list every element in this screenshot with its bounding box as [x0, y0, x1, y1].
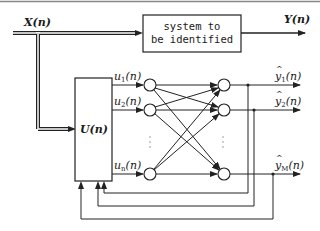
u2-arg: (n) [126, 95, 142, 108]
y1-label: y1(n) [275, 71, 301, 84]
input-node-n [144, 168, 156, 180]
input-node-2 [144, 104, 156, 116]
input-signal-label: X(n) [24, 17, 51, 28]
u1-arg: (n) [126, 70, 142, 83]
ym-var: y [275, 160, 281, 171]
y2-var: y [275, 96, 281, 107]
network-connections [154, 85, 220, 174]
system-block-line2: be identified [143, 33, 241, 46]
system-block-line1: system to [143, 20, 241, 33]
output-signal-label: Y(n) [284, 14, 310, 25]
u1-label: u1(n) [114, 71, 141, 84]
u2-label: u2(n) [114, 96, 141, 109]
ym-label: yM(n) [275, 160, 304, 173]
y1-var: y [275, 71, 281, 82]
un-arg: (n) [126, 159, 142, 172]
output-signal-text: Y(n) [284, 13, 310, 26]
output-node-2 [218, 104, 230, 116]
un-label: un(n) [114, 160, 141, 173]
system-block-label: system to be identified [143, 20, 241, 46]
input-node-1 [144, 79, 156, 91]
input-signal-text: X(n) [24, 16, 51, 29]
y1-arg: (n) [286, 70, 302, 83]
output-node-m [218, 168, 230, 180]
output-node-1 [218, 79, 230, 91]
transform-block-label: U(n) [80, 124, 108, 135]
transform-block-text: U(n) [80, 123, 108, 136]
y2-label: y2(n) [275, 96, 301, 109]
ym-arg: (n) [288, 159, 304, 172]
y2-arg: (n) [286, 95, 302, 108]
